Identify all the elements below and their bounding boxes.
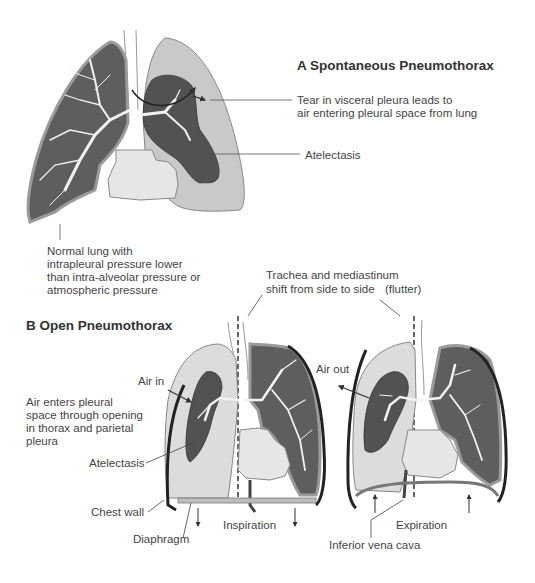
- air-enters-label-line1: Air enters pleural: [26, 395, 113, 409]
- panel-b-inspiration-diagram: [146, 295, 325, 538]
- expiration-label: Expiration: [396, 518, 447, 532]
- atelectasis-label-a: Atelectasis: [305, 148, 361, 162]
- inspiration-label: Inspiration: [223, 518, 276, 532]
- panel-a-title: A Spontaneous Pneumothorax: [297, 58, 494, 73]
- air-in-label: Air in: [138, 374, 164, 388]
- normal-lung-label-line1: Normal lung with: [47, 244, 133, 258]
- air-out-label: Air out: [316, 362, 349, 376]
- diaphragm: [178, 498, 316, 503]
- panel-b-expiration-diagram: [339, 300, 506, 538]
- tear-label-line1: Tear in visceral pleura leads to: [297, 93, 452, 107]
- ivc-label: Inferior vena cava: [329, 538, 420, 552]
- normal-lung-label-line4: atmospheric pressure: [47, 283, 158, 297]
- panel-b-title: B Open Pneumothorax: [26, 318, 172, 333]
- panel-a-diagram: [28, 30, 300, 240]
- air-enters-label-line4: pleura: [26, 434, 58, 448]
- diaphragm-label: Diaphragm: [133, 532, 189, 546]
- chest-wall-label: Chest wall: [91, 505, 144, 519]
- atelectasis-label-b: Atelectasis: [89, 456, 145, 470]
- trachea-label-line2: shift from side to side: [266, 282, 375, 296]
- air-enters-label-line3: in thorax and parietal: [26, 421, 133, 435]
- flutter-label: (flutter): [385, 282, 421, 296]
- normal-lung-label-line3: than intra-alveolar pressure or: [47, 270, 200, 284]
- tear-label-line2: air entering pleural space from lung: [297, 106, 477, 120]
- trachea-label-line1: Trachea and mediastinum: [266, 268, 399, 282]
- normal-lung-label-line2: intrapleural pressure lower: [47, 257, 183, 271]
- air-enters-label-line2: space through opening: [26, 408, 143, 422]
